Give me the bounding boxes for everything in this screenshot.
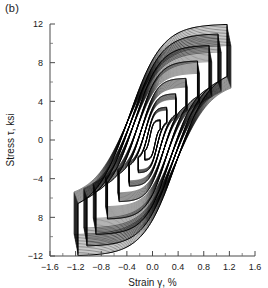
y-tick-label: 12	[33, 19, 43, 29]
hysteresis-loops	[74, 24, 231, 255]
x-axis-title: Strain γ, %	[128, 277, 176, 288]
y-tick-label: 8	[38, 58, 43, 68]
y-tick-label: 0	[38, 135, 43, 145]
x-tick-label: −0.8	[92, 262, 110, 272]
x-tick-label: 0.4	[172, 262, 185, 272]
figure-panel-b: (b) −1.6−1.2−0.8−0.40.00.40.81.21.6−128−…	[0, 0, 268, 288]
y-tick-label: 8	[38, 213, 43, 223]
y-tick-label: 4	[38, 97, 43, 107]
chart-axes	[50, 24, 255, 256]
y-axis-title: Stress τ, ksi	[5, 114, 16, 167]
x-tick-label: 1.2	[223, 262, 236, 272]
hysteresis-chart: −1.6−1.2−0.8−0.40.00.40.81.21.6−128−4048…	[0, 0, 268, 288]
x-tick-label: 0.0	[146, 262, 159, 272]
x-tick-label: −0.4	[118, 262, 136, 272]
y-tick-label: −4	[33, 174, 43, 184]
y-tick-label: −12	[28, 251, 43, 261]
x-tick-label: 1.6	[249, 262, 262, 272]
x-tick-label: −1.6	[41, 262, 59, 272]
x-tick-label: 0.8	[197, 262, 210, 272]
x-tick-label: −1.2	[67, 262, 85, 272]
